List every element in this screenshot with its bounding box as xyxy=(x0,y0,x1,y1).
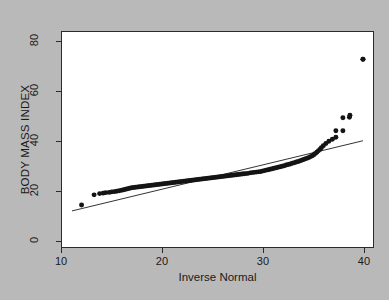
qq-plot-figure: BODY MASS INDEX 020406080 10203040 Inver… xyxy=(0,0,389,300)
y-tick-mark xyxy=(56,141,61,142)
data-point xyxy=(340,115,345,120)
x-axis-title: Inverse Normal xyxy=(61,271,374,283)
x-tick-mark xyxy=(364,248,365,253)
data-point xyxy=(92,192,97,197)
data-point xyxy=(340,128,345,133)
data-point xyxy=(347,113,352,118)
x-tick-label: 10 xyxy=(46,255,76,267)
y-tick-label: 60 xyxy=(28,77,40,103)
y-tick-label: 0 xyxy=(28,227,40,253)
y-tick-label: 40 xyxy=(28,127,40,153)
y-tick-mark xyxy=(56,91,61,92)
data-point xyxy=(333,128,338,133)
y-tick-label: 20 xyxy=(28,177,40,203)
plot-svg xyxy=(62,32,373,247)
y-tick-mark xyxy=(56,241,61,242)
x-tick-mark xyxy=(162,248,163,253)
y-tick-mark xyxy=(56,41,61,42)
y-tick-label: 80 xyxy=(28,27,40,53)
data-points-group xyxy=(79,57,365,208)
x-tick-label: 30 xyxy=(248,255,278,267)
x-tick-mark xyxy=(263,248,264,253)
x-tick-mark xyxy=(61,248,62,253)
y-tick-mark xyxy=(56,191,61,192)
data-point xyxy=(79,203,84,208)
figure-canvas-area: BODY MASS INDEX 020406080 10203040 Inver… xyxy=(8,8,381,292)
data-point xyxy=(333,135,338,140)
data-point xyxy=(360,57,365,62)
x-tick-label: 20 xyxy=(147,255,177,267)
plot-area xyxy=(61,31,374,248)
x-tick-label: 40 xyxy=(349,255,379,267)
